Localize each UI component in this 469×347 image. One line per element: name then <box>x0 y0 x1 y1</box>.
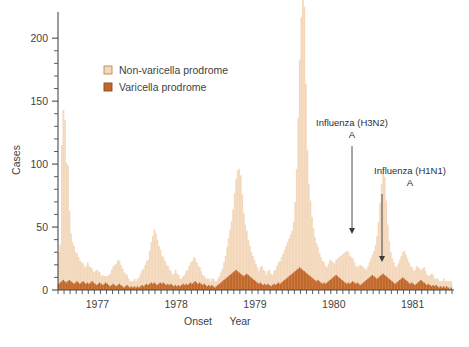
x-tick-label: 1980 <box>322 298 346 310</box>
bar-varicella <box>99 282 101 290</box>
legend-swatch <box>104 83 112 91</box>
bar-varicella <box>167 284 169 290</box>
bar-non-varicella <box>272 275 274 285</box>
bar-varicella <box>332 277 334 290</box>
bar-non-varicella <box>394 266 396 284</box>
bar-varicella <box>126 285 128 290</box>
bar-varicella <box>428 284 430 290</box>
bar-non-varicella <box>140 274 142 287</box>
bar-varicella <box>349 284 351 290</box>
bar-non-varicella <box>197 266 199 284</box>
bar-non-varicella <box>258 271 260 284</box>
bar-varicella <box>361 284 363 290</box>
bar-varicella <box>181 285 183 290</box>
bar-non-varicella <box>63 110 65 280</box>
bar-non-varicella <box>338 257 340 277</box>
bar-non-varicella <box>264 271 266 284</box>
bar-non-varicella <box>307 150 309 273</box>
bar-varicella <box>419 281 421 290</box>
bar-non-varicella <box>355 266 357 284</box>
bar-varicella <box>150 282 152 290</box>
bar-non-varicella <box>273 271 275 284</box>
bar-varicella <box>229 275 231 290</box>
bar-non-varicella <box>105 276 107 282</box>
bar-non-varicella <box>253 260 255 280</box>
bar-non-varicella <box>414 270 416 285</box>
bar-non-varicella <box>231 221 233 274</box>
bar-varicella <box>217 285 219 290</box>
bar-varicella <box>96 285 98 290</box>
bar-non-varicella <box>207 279 209 287</box>
bar-varicella <box>367 279 369 290</box>
bar-varicella <box>352 281 354 290</box>
bar-non-varicella <box>369 262 371 277</box>
bar-non-varicella <box>408 262 410 282</box>
bar-varicella <box>246 274 248 290</box>
bar-varicella <box>388 279 390 290</box>
bar-non-varicella <box>69 211 71 280</box>
bar-varicella <box>258 284 260 290</box>
bar-non-varicella <box>131 281 133 286</box>
bar-non-varicella <box>185 271 187 284</box>
bar-non-varicella <box>78 257 80 282</box>
bar-non-varicella <box>399 260 401 280</box>
bar-varicella <box>291 274 293 290</box>
bar-varicella <box>300 269 302 290</box>
bar-non-varicella <box>208 279 210 285</box>
bar-varicella <box>373 276 375 290</box>
bar-varicella <box>316 281 318 290</box>
bar-varicella <box>141 285 143 290</box>
bar-non-varicella <box>167 266 169 284</box>
bar-non-varicella <box>378 222 380 277</box>
bar-non-varicella <box>300 17 302 269</box>
bar-varicella <box>435 285 437 290</box>
bar-varicella <box>94 284 96 290</box>
bar-varicella <box>275 285 277 290</box>
bar-varicella <box>146 284 148 290</box>
bar-non-varicella <box>176 274 178 287</box>
bar-non-varicella <box>181 279 183 285</box>
bar-varicella <box>125 286 127 290</box>
bar-non-varicella <box>84 267 86 282</box>
bar-non-varicella <box>67 165 69 281</box>
bar-varicella <box>297 269 299 290</box>
bar-varicella <box>314 280 316 290</box>
bar-non-varicella <box>108 275 110 285</box>
bar-varicella <box>134 286 136 290</box>
bar-non-varicella <box>387 225 389 278</box>
chart-canvas: 050100150200 19771978197919801981 Cases … <box>0 0 469 347</box>
bar-non-varicella <box>235 179 237 270</box>
bar-non-varicella <box>106 276 108 284</box>
bar-non-varicella <box>276 266 278 284</box>
bar-non-varicella <box>361 266 363 284</box>
bar-varicella <box>220 282 222 290</box>
bar-varicella <box>207 286 209 290</box>
bar-non-varicella <box>420 270 422 280</box>
bar-non-varicella <box>288 238 290 276</box>
bar-non-varicella <box>91 269 93 282</box>
bar-non-varicella <box>214 281 216 287</box>
bar-varicella <box>164 284 166 290</box>
bar-non-varicella <box>291 231 293 274</box>
bar-varicella <box>200 284 202 290</box>
bar-non-varicella <box>417 267 419 282</box>
bar-non-varicella <box>263 270 265 285</box>
bar-non-varicella <box>397 264 399 282</box>
bar-non-varicella <box>194 259 196 282</box>
bar-non-varicella <box>323 262 325 282</box>
bar-non-varicella <box>247 240 249 275</box>
bar-non-varicella <box>146 261 148 284</box>
bar-varicella <box>199 282 201 290</box>
bar-non-varicella <box>157 240 159 285</box>
bar-non-varicella <box>376 236 378 279</box>
bar-varicella <box>390 280 392 290</box>
bar-non-varicella <box>404 251 406 279</box>
bar-non-varicella <box>432 275 434 285</box>
bar-varicella <box>414 285 416 290</box>
bar-non-varicella <box>319 253 321 281</box>
bar-non-varicella <box>340 256 342 279</box>
bar-varicella <box>423 282 425 290</box>
bar-varicella <box>69 280 71 290</box>
bar-varicella <box>106 284 108 290</box>
bar-varicella <box>344 282 346 290</box>
